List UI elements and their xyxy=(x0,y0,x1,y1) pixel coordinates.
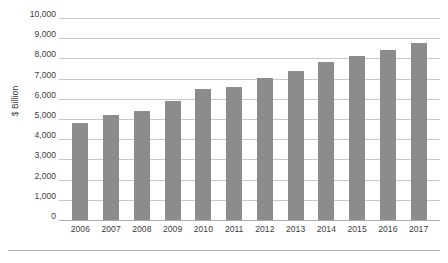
x-tick-label: 2013 xyxy=(280,224,311,234)
bar-2007 xyxy=(103,115,119,220)
y-tick-label: 4,000 xyxy=(18,131,56,140)
bar-slot xyxy=(65,18,96,220)
axis-baseline xyxy=(59,220,440,221)
bar-series xyxy=(59,18,440,220)
bar-slot xyxy=(311,18,342,220)
y-tick-label: 6,000 xyxy=(18,90,56,99)
y-axis-tick-labels: 01,0002,0003,0004,0005,0006,0007,0008,00… xyxy=(18,14,56,220)
caption-divider xyxy=(8,250,440,251)
bar-slot xyxy=(96,18,127,220)
bar-slot xyxy=(373,18,404,220)
y-tick-label: 9,000 xyxy=(18,30,56,39)
bar-2010 xyxy=(195,89,211,220)
y-tick-label: 2,000 xyxy=(18,171,56,180)
x-tick-label: 2010 xyxy=(188,224,219,234)
x-axis-tick-labels: 2006200720082009201020112012201320142015… xyxy=(59,224,440,234)
x-tick-label: 2006 xyxy=(65,224,96,234)
bar-slot xyxy=(250,18,281,220)
x-tick-label: 2008 xyxy=(127,224,158,234)
plot-area xyxy=(59,18,440,220)
y-tick-label: 10,000 xyxy=(18,10,56,19)
bar-2011 xyxy=(226,87,242,220)
bar-2012 xyxy=(257,78,273,220)
bar-2008 xyxy=(134,111,150,220)
bar-2009 xyxy=(165,101,181,220)
y-tick-label: 1,000 xyxy=(18,191,56,200)
y-tick-label: 8,000 xyxy=(18,50,56,59)
x-tick-label: 2015 xyxy=(342,224,373,234)
x-tick-label: 2017 xyxy=(403,224,434,234)
bar-slot xyxy=(157,18,188,220)
bar-slot xyxy=(219,18,250,220)
x-tick-label: 2009 xyxy=(157,224,188,234)
y-tick-label: 0 xyxy=(18,212,56,221)
bar-slot xyxy=(342,18,373,220)
bar-slot xyxy=(127,18,158,220)
y-tick-label: 5,000 xyxy=(18,111,56,120)
bar-2015 xyxy=(349,56,365,220)
bar-2014 xyxy=(318,62,334,220)
bar-slot xyxy=(188,18,219,220)
x-tick-label: 2014 xyxy=(311,224,342,234)
bar-slot xyxy=(403,18,434,220)
y-tick-label: 7,000 xyxy=(18,70,56,79)
x-tick-label: 2012 xyxy=(250,224,281,234)
figure: $ Billion 01,0002,0003,0004,0005,0006,00… xyxy=(0,0,448,263)
x-tick-label: 2011 xyxy=(219,224,250,234)
y-tick-label: 3,000 xyxy=(18,151,56,160)
bar-2013 xyxy=(288,71,304,220)
x-tick-label: 2007 xyxy=(96,224,127,234)
bar-chart: $ Billion 01,0002,0003,0004,0005,0006,00… xyxy=(0,0,448,240)
bar-2016 xyxy=(380,50,396,220)
x-tick-label: 2016 xyxy=(373,224,404,234)
bar-2006 xyxy=(72,123,88,220)
bar-2017 xyxy=(411,43,427,220)
bar-slot xyxy=(280,18,311,220)
